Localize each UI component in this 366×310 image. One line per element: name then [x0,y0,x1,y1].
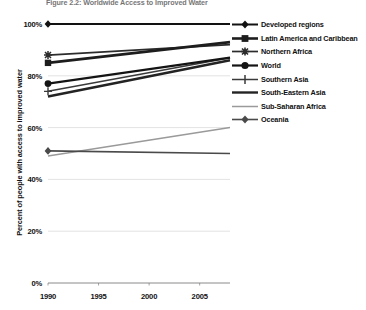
thin-line-marker [232,100,258,113]
diamond-marker [232,18,258,31]
chart-figure: Figure 2.2: Worldwide Access to Improved… [0,0,366,310]
diamond-marker [45,147,52,155]
legend-label: Developed regions [261,20,324,29]
series-line-southern-asia [48,58,230,92]
legend-item-northern-africa[interactable]: Northern Africa [232,45,366,59]
series-line-world [48,58,230,84]
legend-label: Oceania [261,115,288,124]
legend-item-south-eastern-asia[interactable]: South-Eastern Asia [232,86,366,100]
legend-item-latin-america-and-caribbean[interactable]: Latin America and Caribbean [232,32,366,46]
series-line-south-eastern-asia [48,60,230,96]
chart-legend: Developed regionsLatin America and Carib… [232,18,366,127]
circle-marker [45,80,52,87]
legend-label: World [261,61,281,70]
diamond-marker [45,20,52,28]
square-marker [45,60,51,66]
legend-item-oceania[interactable]: Oceania [232,113,366,127]
legend-item-sub-saharan-africa[interactable]: Sub-Saharan Africa [232,100,366,114]
circle-marker [232,59,258,72]
series-line-latin-america-and-caribbean [48,42,230,63]
square-marker [232,32,258,45]
legend-label: Northern Africa [261,47,312,56]
star-marker [44,51,52,59]
legend-item-southern-asia[interactable]: Southern Asia [232,72,366,86]
legend-label: Latin America and Caribbean [261,34,358,43]
line-marker [232,86,258,99]
star-marker [232,45,258,58]
legend-label: Southern Asia [261,75,308,84]
legend-item-world[interactable]: World [232,59,366,73]
legend-item-developed-regions[interactable]: Developed regions [232,18,366,32]
plus-marker [44,87,52,95]
plus-marker [232,73,258,86]
legend-label: South-Eastern Asia [261,88,325,97]
legend-label: Sub-Saharan Africa [261,102,326,111]
diamond-marker [232,113,258,126]
